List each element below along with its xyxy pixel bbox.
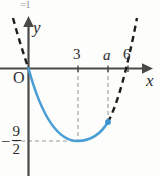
fraction-denominator: 2 bbox=[12, 142, 22, 157]
origin-label: O bbox=[13, 70, 25, 86]
x-tick-label-6: 6 bbox=[123, 47, 131, 62]
x-tick-label-3: 3 bbox=[73, 47, 81, 62]
y-axis-label: y bbox=[33, 19, 41, 36]
x-tick-label-a: a bbox=[103, 48, 111, 63]
y-value-fraction-label: – 9 2 bbox=[2, 124, 21, 157]
parabola-solid-curve bbox=[29, 69, 109, 142]
endpoint-marker-at-a bbox=[105, 119, 111, 125]
parabola-dashed-right-branch bbox=[108, 18, 137, 122]
graph-canvas bbox=[0, 0, 160, 176]
parabola-figure: =1 x y O 3 a 6 – bbox=[0, 0, 160, 176]
x-axis-label: x bbox=[146, 72, 154, 89]
fraction-minus-sign: – bbox=[2, 133, 10, 148]
fraction-stack: 9 2 bbox=[12, 124, 22, 157]
fraction-numerator: 9 bbox=[12, 124, 22, 139]
